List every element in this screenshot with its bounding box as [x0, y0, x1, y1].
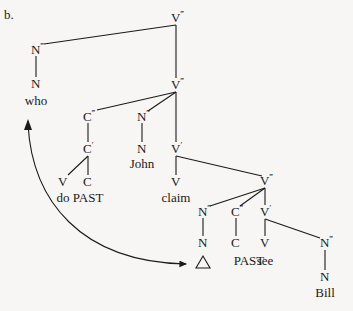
node-cmax1: C‴	[83, 109, 96, 124]
word-bill: Bill	[315, 285, 335, 300]
node-nmax_who: N‴	[31, 42, 44, 57]
node-vmax1: V‴	[171, 10, 184, 25]
word-who: who	[25, 93, 47, 108]
node-nmax_bill: N‴	[320, 235, 333, 250]
node-c_past1: C	[83, 174, 92, 189]
node-cbar1: C′	[83, 141, 94, 156]
node-vbar2: V′	[260, 204, 271, 219]
word-claim: claim	[162, 190, 191, 205]
word-do_past: do PAST	[57, 190, 104, 205]
terminal-words: whoJohndo PASTclaimPASTseeBill	[25, 93, 335, 300]
tree-edge	[44, 25, 176, 44]
tree-edge	[176, 156, 262, 176]
tree-edge	[97, 92, 176, 110]
node-n_john: N	[137, 141, 147, 156]
word-see: see	[257, 253, 274, 268]
node-n_bill: N	[320, 269, 330, 284]
node-vbar1: V′	[171, 141, 182, 156]
example-label: b.	[4, 7, 14, 22]
node-n_who: N	[31, 76, 41, 91]
arrowhead-up-icon	[24, 119, 32, 130]
node-nmax_trace: N‴	[198, 204, 211, 219]
node-v_do: V	[58, 174, 68, 189]
syntax-tree-diagram: b. V‴N‴NV‴C‴N‴C′NV′VCVV‴N‴C‴V′NCVN‴N who…	[0, 0, 353, 311]
node-cmax2: C‴	[231, 204, 244, 219]
tree-edge	[265, 219, 320, 238]
word-john: John	[130, 156, 155, 171]
node-v_claim: V	[171, 174, 181, 189]
tree-nodes: V‴N‴NV‴C‴N‴C′NV′VCVV‴N‴C‴V′NCVN‴N	[31, 10, 333, 284]
trace-triangle-icon	[196, 256, 210, 268]
node-vmax2: V‴	[171, 77, 184, 92]
node-vmax3: V‴	[260, 173, 273, 188]
tree-edge	[68, 156, 88, 175]
node-n_trace: N	[198, 235, 208, 250]
node-nmax_john: N‴	[137, 109, 150, 124]
node-c_past2: C	[231, 235, 240, 250]
node-v_see: V	[260, 235, 270, 250]
